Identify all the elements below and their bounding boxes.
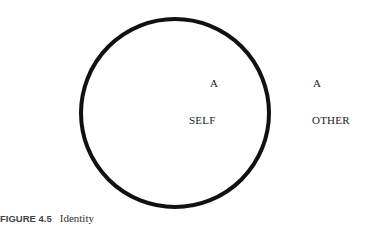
- other-label: OTHER: [312, 114, 350, 126]
- figure-title: Identity: [60, 212, 94, 224]
- other-symbol: A: [313, 77, 321, 89]
- self-label: SELF: [189, 114, 215, 126]
- self-symbol: A: [210, 77, 218, 89]
- self-boundary-circle: [79, 17, 271, 209]
- figure-number: FIGURE 4.5: [0, 213, 52, 224]
- figure-caption: FIGURE 4.5Identity: [0, 212, 94, 224]
